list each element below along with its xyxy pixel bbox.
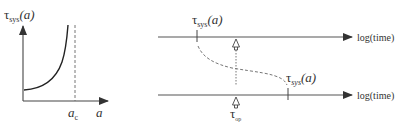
bottom-tau-sys-label: τsys(a) bbox=[286, 70, 316, 87]
y-axis-label: τsys(a) bbox=[4, 7, 35, 24]
right-plot: log(time) log(time) τsys(a) τsys(a) τop bbox=[158, 12, 394, 122]
critical-a-label: ac bbox=[68, 105, 79, 122]
bottom-axis-label: log(time) bbox=[357, 90, 394, 102]
diagram-canvas: τsys(a) ac a log(time) log(time) τsys(a)… bbox=[0, 0, 406, 126]
x-axis-label: a bbox=[96, 105, 103, 120]
left-plot: τsys(a) ac a bbox=[4, 7, 108, 122]
top-axis-label: log(time) bbox=[357, 32, 394, 44]
tau-shift-dashed-curve bbox=[198, 46, 287, 85]
op-up-arrow-top-icon bbox=[233, 39, 240, 50]
top-tau-sys-label: τsys(a) bbox=[192, 12, 223, 29]
tau-sys-curve bbox=[24, 25, 68, 90]
